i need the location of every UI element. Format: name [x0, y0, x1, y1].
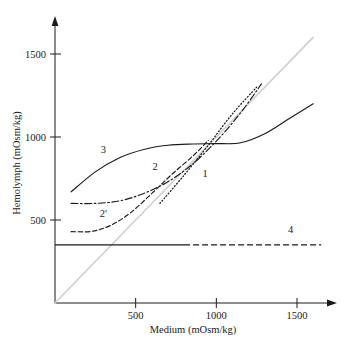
curve-label-3: 3: [101, 144, 106, 155]
chart-background: [0, 0, 348, 350]
curve-label-1: 1: [202, 168, 207, 179]
x-tick-label: 1000: [206, 310, 227, 321]
y-tick-label: 500: [30, 215, 46, 226]
curve-label-2: 2: [152, 161, 157, 172]
chart-canvas: 50010001500 50010001500 Medium (mOsm/kg)…: [0, 0, 348, 350]
y-tick-label: 1000: [25, 132, 46, 143]
y-tick-label: 1500: [25, 49, 46, 60]
curve-label-2prime: 2': [100, 208, 107, 219]
x-axis-title: Medium (mOsm/kg): [150, 324, 237, 336]
x-tick-label: 500: [128, 310, 144, 321]
x-tick-label: 1500: [287, 310, 308, 321]
curve-label-4: 4: [288, 224, 294, 235]
y-axis-title: Hemolymph (mOsm/kg): [11, 111, 23, 215]
osmoregulation-chart: 50010001500 50010001500 Medium (mOsm/kg)…: [0, 0, 348, 350]
